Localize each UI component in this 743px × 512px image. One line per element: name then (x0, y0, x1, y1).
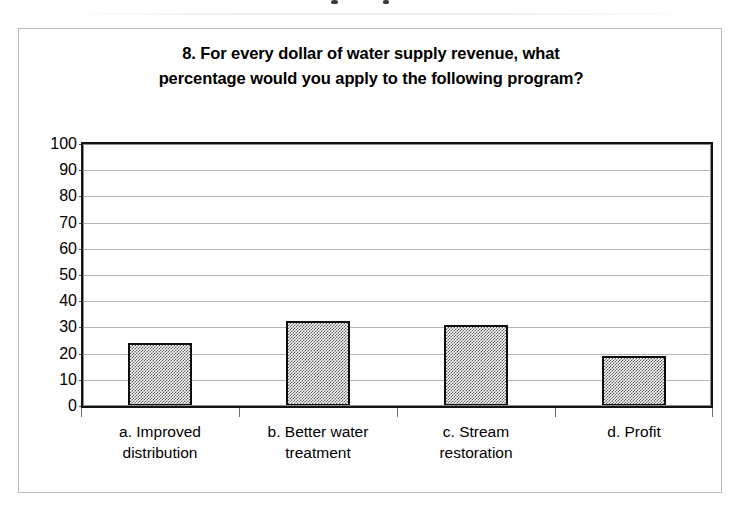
x-axis-category-label-line: distribution (69, 442, 251, 463)
x-axis-category-label: b. Better watertreatment (227, 421, 409, 463)
x-axis-category-label: c. Streamrestoration (385, 421, 567, 463)
x-axis-category-label-line: c. Stream (385, 421, 567, 442)
x-axis-category-label-line: restoration (385, 442, 567, 463)
y-axis-tick-label: 100 (29, 136, 77, 152)
x-axis-category-label-line: treatment (227, 442, 409, 463)
x-axis-tick-mark (81, 408, 82, 417)
y-axis-tick-label: 50 (29, 267, 77, 283)
scan-smear (60, 13, 700, 15)
gridline (83, 327, 711, 328)
y-axis-tick-label: 60 (29, 241, 77, 257)
figure-frame: 8. For every dollar of water supply reve… (18, 28, 722, 493)
x-axis-category-label: d. Profit (543, 421, 725, 442)
scan-speck (331, 0, 338, 4)
x-axis-category-label-line: b. Better water (227, 421, 409, 442)
x-axis-category-label-line: a. Improved (69, 421, 251, 442)
bar (286, 321, 350, 406)
scan-speck (383, 0, 389, 4)
gridline (83, 301, 711, 302)
x-axis-category-label-line: d. Profit (543, 421, 725, 442)
y-axis-tick-label: 40 (29, 293, 77, 309)
y-axis-tick-label: 80 (29, 188, 77, 204)
y-axis-tick-labels: 1009080706050403020100 (29, 133, 77, 399)
gridline (83, 249, 711, 250)
bar (602, 356, 666, 406)
gridline (83, 170, 711, 171)
y-axis-tick-label: 10 (29, 372, 77, 388)
x-axis-tick-mark (239, 408, 240, 417)
x-axis-tick-marks (81, 408, 713, 418)
gridline (83, 223, 711, 224)
plot-area (81, 142, 713, 408)
y-axis-tick-label: 20 (29, 346, 77, 362)
x-axis-tick-mark (712, 408, 713, 417)
x-axis-category-labels: a. Improveddistributionb. Better watertr… (81, 421, 713, 483)
gridline (83, 196, 711, 197)
x-axis-tick-mark (397, 408, 398, 417)
scan-artifact-strip (0, 0, 743, 18)
x-axis-category-label: a. Improveddistribution (69, 421, 251, 463)
bar (444, 325, 508, 406)
gridline (83, 275, 711, 276)
bar (128, 343, 192, 406)
x-axis-tick-mark (555, 408, 556, 417)
y-axis-tick-label: 30 (29, 319, 77, 335)
y-axis-tick-label: 90 (29, 162, 77, 178)
plot-wrapper: 1009080706050403020100 a. Improveddistri… (19, 29, 723, 494)
y-axis-tick-label: 70 (29, 215, 77, 231)
y-axis-tick-label: 0 (29, 398, 77, 414)
